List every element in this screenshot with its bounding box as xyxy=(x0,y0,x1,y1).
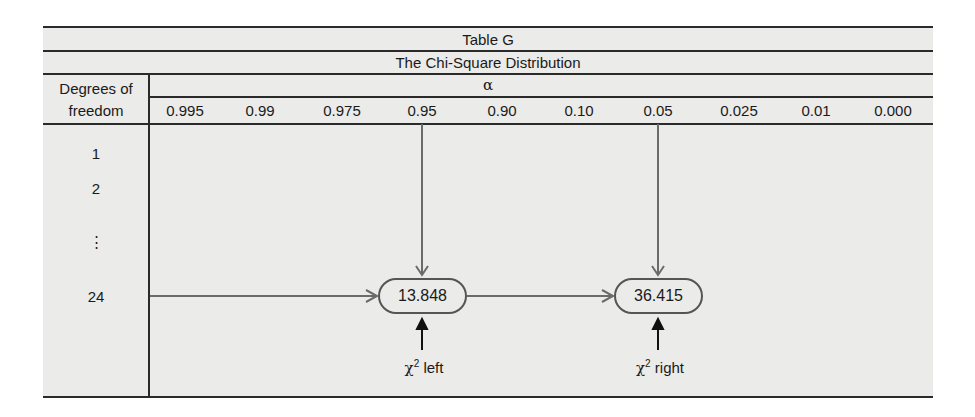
chi-left-value: 13.848 xyxy=(378,278,467,314)
chi-left-value-text: 13.848 xyxy=(398,287,447,305)
up-arrow-left-icon xyxy=(417,319,427,329)
up-arrow-right-icon xyxy=(653,319,663,329)
chi-right-label: χ2 right xyxy=(636,355,684,377)
chi-left-text: left xyxy=(419,359,443,376)
chi-right-value: 36.415 xyxy=(614,278,703,314)
chi-symbol: χ xyxy=(636,359,645,377)
chi-symbol: χ xyxy=(405,359,414,377)
arrows-overlay xyxy=(0,0,975,417)
chi-right-text: right xyxy=(651,359,684,376)
chi-right-value-text: 36.415 xyxy=(634,287,683,305)
chi-left-label: χ2 left xyxy=(405,355,444,377)
